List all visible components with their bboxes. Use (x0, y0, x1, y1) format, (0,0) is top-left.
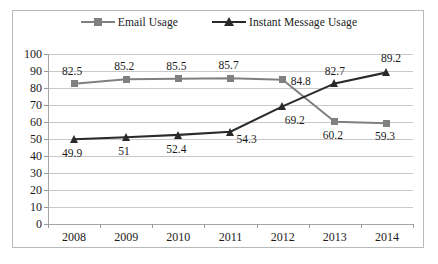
y-tick-label: 50 (16, 133, 42, 145)
y-tick-label: 80 (16, 82, 42, 94)
data-point-triangle (278, 102, 286, 110)
data-point-triangle (70, 135, 78, 143)
data-label: 54.3 (237, 134, 257, 146)
x-tick-label: 2009 (100, 231, 152, 243)
y-tick-label: 100 (16, 48, 42, 60)
x-tick-mark (257, 224, 258, 228)
x-tick-mark (48, 224, 49, 228)
data-point-square (279, 76, 286, 83)
gridline (48, 54, 413, 55)
x-tick-mark (309, 224, 310, 228)
x-tick-label: 2011 (205, 231, 257, 243)
data-label: 51 (118, 146, 130, 158)
legend-label-email-usage: Email Usage (118, 16, 178, 28)
data-label: 85.7 (219, 60, 239, 72)
x-tick-mark (204, 224, 205, 228)
y-axis-line (48, 54, 49, 224)
square-marker-icon (94, 18, 102, 26)
y-tick-label: 70 (16, 99, 42, 111)
legend-swatch-email-usage (81, 16, 115, 28)
legend-label-instant-message-usage: Instant Message Usage (249, 16, 357, 28)
x-axis-line (48, 224, 413, 225)
gridline (48, 207, 413, 208)
data-label: 49.9 (62, 148, 82, 160)
data-point-triangle (174, 131, 182, 139)
x-tick-mark (413, 224, 414, 228)
legend-item-instant-message-usage[interactable]: Instant Message Usage (212, 16, 357, 28)
data-point-square (175, 75, 182, 82)
chart-legend: Email Usage Instant Message Usage (0, 12, 438, 32)
gridline (48, 173, 413, 174)
y-tick-label: 10 (16, 201, 42, 213)
gridline (48, 156, 413, 157)
data-label: 59.3 (375, 131, 395, 143)
data-label: 52.4 (166, 144, 186, 156)
gridline (48, 122, 413, 123)
gridline (48, 139, 413, 140)
data-label: 84.8 (291, 76, 311, 88)
data-point-square (123, 76, 130, 83)
gridline (48, 88, 413, 89)
data-label: 85.5 (166, 61, 186, 73)
data-label: 82.5 (62, 66, 82, 78)
data-label: 89.2 (381, 53, 401, 65)
y-tick-label: 30 (16, 167, 42, 179)
y-tick-label: 20 (16, 184, 42, 196)
x-tick-label: 2008 (48, 231, 100, 243)
x-tick-label: 2010 (152, 231, 204, 243)
y-tick-label: 60 (16, 116, 42, 128)
chart-frame (12, 10, 424, 248)
chart-figure: Email Usage Instant Message Usage 100908… (0, 0, 438, 264)
data-label: 60.2 (323, 130, 343, 142)
data-point-triangle (382, 68, 390, 76)
data-label: 85.2 (114, 61, 134, 73)
data-label: 82.7 (325, 66, 345, 78)
gridline (48, 105, 413, 106)
triangle-marker-icon (224, 17, 234, 26)
data-point-square (227, 75, 234, 82)
data-point-square (331, 118, 338, 125)
x-tick-label: 2012 (257, 231, 309, 243)
legend-swatch-instant-message-usage (212, 16, 246, 28)
data-label: 69.2 (285, 115, 305, 127)
y-tick-label: 40 (16, 150, 42, 162)
data-point-triangle (122, 133, 130, 141)
x-tick-mark (361, 224, 362, 228)
legend-item-email-usage[interactable]: Email Usage (81, 16, 178, 28)
y-axis: 1009080706050403020100 (14, 0, 42, 264)
x-tick-mark (152, 224, 153, 228)
data-point-square (71, 80, 78, 87)
data-point-square (383, 120, 390, 127)
data-point-triangle (330, 79, 338, 87)
y-tick-label: 0 (16, 218, 42, 230)
x-tick-label: 2014 (361, 231, 413, 243)
y-tick-label: 90 (16, 65, 42, 77)
gridline (48, 190, 413, 191)
data-point-triangle (226, 128, 234, 136)
x-tick-label: 2013 (309, 231, 361, 243)
x-tick-mark (100, 224, 101, 228)
